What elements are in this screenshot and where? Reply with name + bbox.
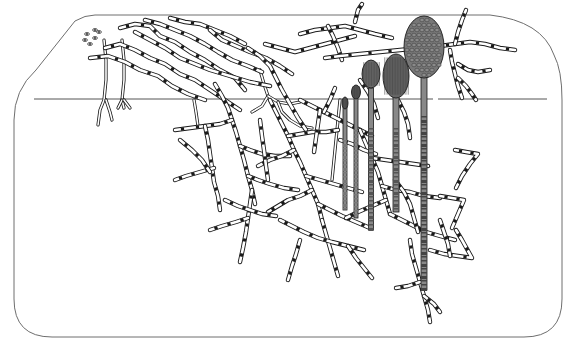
spore-cell — [410, 28, 414, 32]
stalk-band — [421, 212, 427, 214]
septum — [315, 129, 319, 133]
stalk-band — [421, 184, 427, 186]
stalk-band — [421, 156, 427, 159]
spore-cell — [432, 63, 436, 67]
septum — [471, 69, 475, 73]
stalk-band — [421, 244, 427, 246]
hypha — [288, 129, 338, 137]
spore-cell — [407, 43, 411, 47]
stalk-band — [421, 168, 427, 171]
septum — [267, 153, 271, 157]
spore-cell — [420, 48, 424, 52]
stalk-band — [393, 164, 399, 166]
stalk-band — [393, 188, 399, 190]
stalk-band — [421, 144, 427, 147]
stalk-band — [369, 160, 374, 162]
spore-cell — [437, 33, 441, 37]
stalk-band — [393, 156, 399, 159]
hypha-wall — [440, 196, 464, 228]
stalk-band — [354, 194, 358, 196]
spore-cell — [417, 23, 421, 27]
septum — [265, 171, 269, 175]
septum — [245, 223, 249, 227]
stalk-band — [393, 140, 399, 142]
spore-cell — [430, 38, 434, 42]
septum — [207, 145, 211, 149]
spore-cell — [412, 33, 416, 37]
stalk-band — [369, 140, 374, 142]
stalk-band — [421, 264, 427, 267]
stalk-band — [369, 180, 374, 183]
spore-cell — [432, 33, 436, 37]
stalk-band — [354, 206, 358, 208]
septum — [427, 314, 431, 318]
container-outline — [14, 15, 562, 337]
spore-cell — [415, 58, 419, 62]
spore-cell — [437, 43, 441, 47]
spore-cell — [422, 33, 426, 37]
spore-cell — [417, 63, 421, 67]
spore-cell — [427, 73, 431, 77]
stalk-band — [393, 132, 399, 135]
hypha — [322, 220, 338, 276]
septum — [446, 43, 450, 47]
hypha — [440, 195, 464, 228]
septum — [321, 27, 325, 31]
septum — [388, 49, 392, 53]
septum — [377, 157, 381, 161]
stalk-band — [421, 240, 427, 243]
septum — [482, 69, 486, 73]
septum — [258, 82, 262, 86]
spore-cell — [412, 23, 416, 27]
septum — [141, 23, 145, 27]
stalk-band — [393, 168, 399, 171]
hypha-lumen — [106, 100, 112, 120]
stalk-band — [369, 184, 374, 186]
stalk-band — [393, 200, 399, 202]
spore-cell — [432, 43, 436, 47]
stalk-band — [369, 212, 374, 214]
spore-cell — [422, 53, 426, 57]
stalk-band — [369, 192, 374, 195]
hypha — [210, 218, 248, 230]
stalk-band — [369, 164, 374, 166]
sporangiophore-stage-1 — [342, 97, 348, 210]
hypha — [396, 282, 420, 289]
hypha — [458, 64, 490, 73]
stalk-band — [421, 132, 427, 135]
stalk-band — [421, 176, 427, 178]
septum — [211, 173, 215, 177]
stalk-band — [421, 120, 427, 123]
stalk-band — [354, 214, 358, 216]
stalk-band — [393, 152, 399, 154]
stalk-band — [354, 154, 358, 156]
stalk-band — [369, 132, 374, 135]
stalk-band — [354, 138, 358, 140]
stalk-band — [369, 208, 374, 210]
hypha — [455, 149, 478, 188]
septum — [205, 131, 209, 135]
spore-nucleus — [84, 39, 86, 41]
spore-cell — [427, 23, 431, 27]
stalk-band — [421, 192, 427, 195]
stalk-band — [393, 160, 399, 162]
stalk-band — [421, 228, 427, 231]
stalk-band — [369, 176, 374, 178]
septum — [317, 115, 321, 119]
spore-cell — [435, 38, 439, 42]
septum — [259, 126, 263, 130]
stalk-band — [369, 168, 374, 171]
stalk-band — [354, 198, 358, 200]
stalk-band — [421, 220, 427, 222]
stalk-band — [343, 200, 347, 202]
spore-cell — [420, 38, 424, 42]
septum — [249, 195, 253, 199]
spore-cell — [405, 38, 409, 42]
stalk-band — [343, 208, 347, 210]
stalk-band — [343, 188, 347, 190]
stalk-band — [393, 180, 399, 183]
spore-cell — [427, 43, 431, 47]
stalk-band — [369, 156, 374, 159]
spore-cell — [417, 33, 421, 37]
stalk-band — [421, 148, 427, 150]
